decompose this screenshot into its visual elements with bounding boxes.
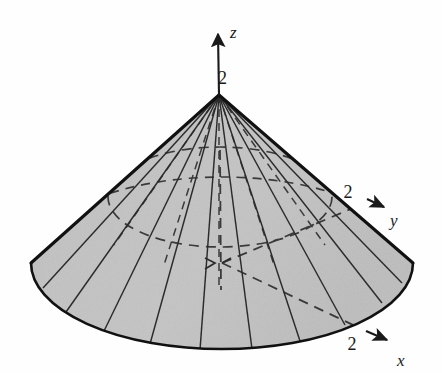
cone-diagram-svg: 2 z 2 y 2 x	[0, 0, 442, 373]
y-tick-label: 2	[344, 182, 353, 202]
y-axis-label: y	[388, 211, 398, 230]
x-tick-label: 2	[348, 334, 357, 354]
cone-diagram-figure: 2 z 2 y 2 x	[0, 0, 442, 373]
x-axis-label: x	[396, 351, 405, 370]
z-axis-label: z	[229, 23, 237, 42]
z-tick-label: 2	[218, 68, 227, 88]
